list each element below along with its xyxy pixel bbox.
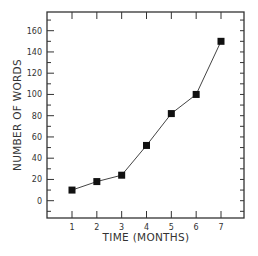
y-tick-label: 40: [32, 154, 42, 163]
data-series: [69, 38, 225, 194]
y-tick-label: 160: [27, 27, 42, 36]
x-axis-label: TIME (MONTHS): [102, 231, 190, 243]
plot-border: [47, 12, 244, 218]
y-tick-label: 140: [27, 48, 42, 57]
y-tick-label: 80: [32, 112, 42, 121]
data-point-marker: [143, 142, 150, 149]
x-tick-label: 2: [94, 223, 99, 232]
y-tick-label: 60: [32, 133, 42, 142]
data-point-marker: [93, 178, 100, 185]
y-tick-label: 100: [27, 90, 42, 99]
data-point-marker: [168, 110, 175, 117]
y-tick-label: 0: [37, 197, 42, 206]
y-tick-label: 120: [27, 69, 42, 78]
series-line: [72, 41, 221, 190]
x-tick-label: 7: [218, 223, 223, 232]
data-point-marker: [193, 91, 200, 98]
axis-ticks: [47, 12, 244, 218]
data-point-marker: [118, 172, 125, 179]
y-axis-label: NUMBER OF WORDS: [11, 59, 23, 171]
y-tick-label: 20: [32, 175, 42, 184]
data-point-marker: [69, 187, 76, 194]
x-tick-label: 6: [194, 223, 199, 232]
y-tick-labels: 020406080100120140160: [27, 27, 42, 206]
data-point-marker: [218, 38, 225, 45]
line-chart: 020406080100120140160 1234567 TIME (MONT…: [0, 0, 258, 256]
plot-frame: [47, 12, 244, 218]
x-tick-label: 1: [69, 223, 74, 232]
